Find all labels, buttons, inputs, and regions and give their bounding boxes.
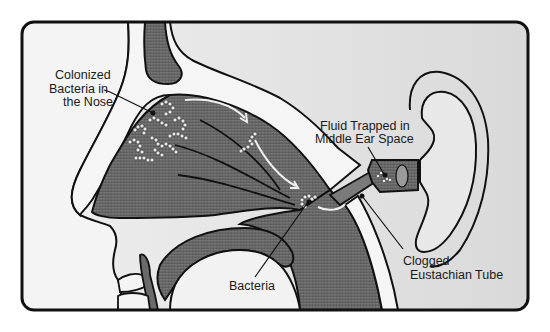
label-colonized-line2: Bacteria in: [49, 82, 108, 96]
leader-dot-colonized: [151, 111, 156, 116]
ear-nose-anatomy-diagram: Colonized Bacteria in the Nose Fluid Tra…: [0, 0, 550, 332]
label-bacteria: Bacteria: [229, 279, 275, 293]
leader-dot-clogged: [360, 194, 365, 199]
label-clogged-line1: Clogged: [403, 254, 450, 268]
leader-dot-fluid: [383, 173, 388, 178]
label-fluid-line2: Middle Ear Space: [315, 132, 414, 146]
label-colonized-line3: the Nose: [63, 95, 113, 109]
middle-ear-chamber: [368, 160, 418, 192]
label-clogged-line2: Eustachian Tube: [410, 268, 503, 282]
leader-dot-bacteria: [307, 200, 312, 205]
eardrum: [396, 165, 408, 187]
label-fluid-line1: Fluid Trapped in: [320, 119, 410, 133]
lower-lip: [118, 293, 150, 310]
label-colonized-line1: Colonized: [55, 68, 111, 82]
